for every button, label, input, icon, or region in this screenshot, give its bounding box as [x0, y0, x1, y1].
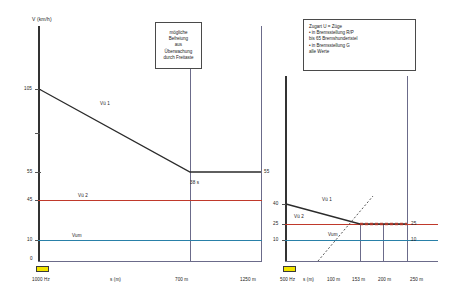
curve-label-vum-right: Vum — [328, 232, 338, 237]
x-tick-label-153m: 153 m — [352, 277, 365, 282]
right-panel: Zugart U = Züge • in Bremsstellung R/P b… — [270, 0, 458, 297]
annotation-38s: 38 s — [190, 180, 199, 185]
curve-label-vue2-left: Vü 2 — [78, 193, 88, 198]
magnet-label-500hz: 500 Hz — [280, 277, 295, 282]
left-panel: mögliche Befreiung aus Überwachung durch… — [0, 0, 270, 297]
curve-label-vue1-right: Vü 1 — [322, 197, 332, 202]
curve-vue1-right-svg — [270, 0, 458, 297]
x-tick-label-200m: 200 m — [378, 277, 391, 282]
x-tick-label-250m: 250 m — [410, 277, 423, 282]
left-right-label-55: 55 — [264, 169, 269, 174]
curve-label-vum-left: Vum — [72, 233, 82, 238]
right-x-axis-title: s (m) — [303, 277, 314, 282]
x-tick-label-1250m: 1250 m — [240, 277, 256, 282]
magnet-label-1000hz: 1000 Hz — [32, 277, 50, 282]
x-tick-label-100m: 100 m — [327, 277, 340, 282]
left-x-axis-title: s (m) — [110, 277, 121, 282]
curve-label-vue1-left: Vü 1 — [100, 101, 110, 106]
curve-label-vue2-right: Vü 2 — [294, 214, 304, 219]
right-edge-label-10: 10 — [411, 237, 416, 242]
x-tick-label-700m: 700 m — [175, 277, 188, 282]
magnet-1000hz — [36, 266, 49, 272]
magnet-500hz — [283, 266, 296, 272]
pzb-speed-supervision-diagram: mögliche Befreiung aus Überwachung durch… — [0, 0, 458, 297]
curve-vue1-left-svg — [0, 0, 270, 297]
right-edge-label-25: 25 — [411, 221, 416, 226]
